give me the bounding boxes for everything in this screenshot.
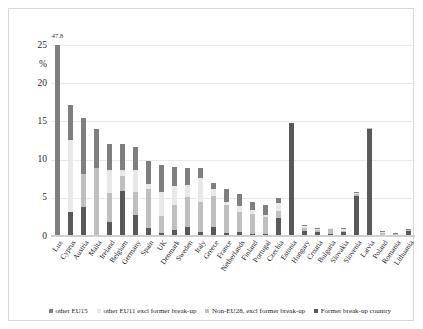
bar-column[interactable] bbox=[402, 45, 415, 236]
legend-item[interactable]: Non-EU28, excl former break-up bbox=[205, 307, 305, 315]
stacked-bar[interactable] bbox=[159, 165, 164, 236]
bar-column[interactable] bbox=[220, 45, 233, 236]
stacked-bar[interactable] bbox=[107, 144, 112, 236]
stacked-bar[interactable] bbox=[68, 105, 73, 236]
bar-column[interactable] bbox=[246, 45, 259, 236]
stacked-bar[interactable] bbox=[354, 192, 359, 236]
x-axis-line bbox=[51, 235, 415, 236]
stacked-bar[interactable] bbox=[250, 202, 255, 236]
stacked-bar[interactable] bbox=[172, 167, 177, 236]
legend-item[interactable]: other EU15 bbox=[49, 307, 88, 315]
bar-column[interactable] bbox=[142, 45, 155, 236]
y-tick-25: 25 bbox=[38, 41, 48, 51]
bar-column[interactable] bbox=[64, 45, 77, 236]
y-tick-10: 10 bbox=[38, 155, 48, 165]
bar-column[interactable] bbox=[103, 45, 116, 236]
bar-segment-non-eu28 bbox=[81, 174, 86, 207]
bar-column[interactable] bbox=[272, 45, 285, 236]
bar-column[interactable] bbox=[389, 45, 402, 236]
stacked-bar[interactable] bbox=[289, 123, 294, 236]
bar-segment-other-eu15 bbox=[107, 144, 112, 169]
bar-column[interactable] bbox=[116, 45, 129, 236]
x-label-slot: UK bbox=[155, 237, 168, 299]
bar-column[interactable] bbox=[337, 45, 350, 236]
bar-column[interactable] bbox=[155, 45, 168, 236]
bar-column[interactable] bbox=[168, 45, 181, 236]
bar-segment-other-eu15 bbox=[185, 168, 190, 185]
bar-segment-other-eu11 bbox=[120, 170, 125, 177]
bar-segment-other-eu15 bbox=[224, 189, 229, 202]
bar-segment-other-eu11 bbox=[211, 189, 216, 197]
bar-segment-non-eu28 bbox=[107, 193, 112, 222]
bar-segment-former-breakup bbox=[289, 123, 294, 236]
bar-column[interactable] bbox=[350, 45, 363, 236]
legend-label: Former break-up country bbox=[321, 307, 391, 315]
legend-item[interactable]: other EU11 excl former break-up bbox=[97, 307, 197, 315]
bar-column[interactable] bbox=[311, 45, 324, 236]
bar-column[interactable] bbox=[77, 45, 90, 236]
x-label-slot: Greece bbox=[207, 237, 220, 299]
bar-segment-non-eu28 bbox=[120, 176, 125, 191]
bar-column[interactable] bbox=[194, 45, 207, 236]
bar-column[interactable] bbox=[376, 45, 389, 236]
stacked-bar[interactable] bbox=[211, 183, 216, 236]
bar-column[interactable] bbox=[285, 45, 298, 236]
stacked-bar[interactable] bbox=[224, 189, 229, 236]
bar-data-label: 47.8 bbox=[52, 32, 63, 39]
y-tick-20: 20 bbox=[38, 79, 48, 89]
legend-item[interactable]: Former break-up country bbox=[314, 307, 391, 315]
plot-area: 47.8 bbox=[51, 45, 415, 236]
y-axis-labels: 25 % 20 15 10 5 0 bbox=[17, 37, 47, 243]
x-label-slot: Spain bbox=[142, 237, 155, 299]
bar-segment-former-breakup bbox=[367, 129, 372, 236]
bar-column[interactable]: 47.8 bbox=[51, 45, 64, 236]
x-label-slot: Belgium bbox=[116, 237, 129, 299]
stacked-bar[interactable] bbox=[94, 129, 99, 236]
bar-segment-other-eu15 bbox=[133, 147, 138, 170]
bar-column[interactable] bbox=[90, 45, 103, 236]
legend-swatch-icon bbox=[205, 309, 209, 313]
stacked-bar[interactable] bbox=[81, 118, 86, 236]
bar-segment-non-eu28 bbox=[198, 202, 203, 232]
bar-column[interactable] bbox=[181, 45, 194, 236]
stacked-bar[interactable] bbox=[198, 168, 203, 236]
stacked-bar[interactable] bbox=[146, 161, 151, 236]
bar-segment-non-eu28 bbox=[263, 217, 268, 235]
bar-column[interactable] bbox=[233, 45, 246, 236]
stacked-bar[interactable] bbox=[120, 144, 125, 236]
bar-segment-other-eu15 bbox=[250, 202, 255, 210]
stacked-bar[interactable] bbox=[133, 147, 138, 236]
stacked-bar[interactable] bbox=[185, 168, 190, 236]
bar-column[interactable] bbox=[259, 45, 272, 236]
x-label-slot: Austria bbox=[77, 237, 90, 299]
bar-segment-other-eu15 bbox=[159, 165, 164, 193]
x-label-slot: Poland bbox=[376, 237, 389, 299]
stacked-bar[interactable] bbox=[263, 205, 268, 236]
y-tick-15: 15 bbox=[38, 117, 48, 127]
bar-segment-other-eu15 bbox=[55, 45, 60, 236]
x-label-slot: Croatia bbox=[311, 237, 324, 299]
bar-segment-former-breakup bbox=[120, 191, 125, 236]
bar-segment-non-eu28 bbox=[211, 196, 216, 227]
y-axis-unit: % bbox=[39, 60, 47, 70]
stacked-bar[interactable] bbox=[367, 128, 372, 236]
x-axis-tick-label: Spain bbox=[139, 239, 155, 257]
bar-segment-other-eu11 bbox=[198, 178, 203, 202]
legend-swatch-icon bbox=[49, 309, 53, 313]
legend-swatch-icon bbox=[314, 309, 318, 313]
bar-column[interactable] bbox=[324, 45, 337, 236]
x-label-slot: Cyprus bbox=[64, 237, 77, 299]
stacked-bar[interactable] bbox=[55, 45, 60, 236]
stacked-bar[interactable] bbox=[237, 194, 242, 236]
x-label-slot: Slovakia bbox=[337, 237, 350, 299]
bar-segment-other-eu11 bbox=[159, 192, 164, 216]
bar-segment-other-eu11 bbox=[133, 170, 138, 192]
bar-column[interactable] bbox=[129, 45, 142, 236]
bar-column[interactable] bbox=[363, 45, 376, 236]
x-label-slot: Netherlands bbox=[233, 237, 246, 299]
bar-segment-non-eu28 bbox=[224, 205, 229, 233]
bar-column[interactable] bbox=[207, 45, 220, 236]
bar-segment-other-eu15 bbox=[172, 167, 177, 186]
stacked-bar[interactable] bbox=[276, 198, 281, 236]
bar-column[interactable] bbox=[298, 45, 311, 236]
